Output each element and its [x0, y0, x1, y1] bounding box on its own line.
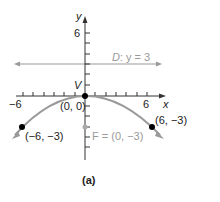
x-axis-label: x — [162, 98, 169, 110]
y-axis — [83, 16, 91, 160]
origin-label: (0, 0) — [60, 100, 86, 112]
focus-point — [83, 125, 88, 130]
caption: (a) — [82, 174, 96, 186]
directrix-label: D: y = 3 — [112, 51, 150, 63]
vertex-point — [82, 93, 88, 99]
y-tick-6: 6 — [74, 27, 80, 39]
left-point-label: (−6, −3) — [25, 130, 64, 142]
parabola-diagram: y 6 x −6 6 D: y = 3 V (0, 0) (−6, −3) (6… — [0, 0, 220, 202]
right-point-label: (6, −3) — [155, 114, 187, 126]
x-tick-6: 6 — [143, 98, 149, 110]
focus-label: F = (0, −3) — [92, 130, 143, 142]
y-axis-label: y — [75, 10, 83, 22]
vertex-label: V — [74, 79, 83, 91]
x-tick-neg6: −6 — [9, 98, 22, 110]
